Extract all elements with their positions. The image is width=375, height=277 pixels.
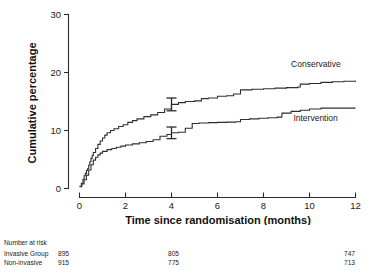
risk-row-label-invasive: Invasive Group bbox=[4, 250, 58, 258]
x-tick-label-0: 0 bbox=[77, 200, 82, 211]
x-tick-label-8: 8 bbox=[261, 200, 266, 211]
number-at-risk-table: Number at risk Invasive Group 895 805 74… bbox=[4, 239, 372, 268]
x-axis-ticks bbox=[80, 193, 356, 198]
x-axis-title: Time since randomisation (months) bbox=[125, 214, 311, 225]
curve-conservative bbox=[80, 81, 356, 187]
series-label-conservative: Conservative bbox=[291, 59, 341, 69]
y-axis-ticks bbox=[64, 15, 69, 189]
risk-value-noninvasive-4: 775 bbox=[168, 259, 344, 267]
series-label-intervention: Intervention bbox=[293, 113, 338, 123]
y-tick-label-0: 0 bbox=[56, 183, 61, 194]
risk-value-invasive-4: 805 bbox=[168, 250, 344, 258]
risk-row-label-noninvasive: Non-invasive bbox=[4, 259, 58, 267]
risk-table-caption: Number at risk bbox=[4, 239, 372, 247]
y-tick-label-30: 30 bbox=[50, 9, 61, 20]
plot-area: 30 20 10 0 Cumulative percentage 0 2 4 6… bbox=[0, 0, 375, 225]
x-tick-label-2: 2 bbox=[123, 200, 128, 211]
survival-curve-figure: 30 20 10 0 Cumulative percentage 0 2 4 6… bbox=[0, 0, 375, 277]
y-axis-title: Cumulative percentage bbox=[26, 42, 38, 163]
risk-value-invasive-0: 895 bbox=[58, 250, 168, 258]
table-row: Invasive Group 895 805 747 bbox=[4, 250, 372, 259]
x-tick-label-10: 10 bbox=[304, 200, 315, 211]
risk-value-invasive-12: 747 bbox=[344, 250, 368, 258]
table-row: Non-invasive 915 775 713 bbox=[4, 259, 372, 268]
x-tick-label-4: 4 bbox=[169, 200, 174, 211]
risk-value-noninvasive-12: 713 bbox=[344, 259, 368, 267]
risk-value-noninvasive-0: 915 bbox=[58, 259, 168, 267]
y-tick-label-20: 20 bbox=[50, 67, 61, 78]
x-tick-label-12: 12 bbox=[350, 200, 361, 211]
x-tick-label-6: 6 bbox=[215, 200, 220, 211]
y-tick-label-10: 10 bbox=[50, 125, 61, 136]
